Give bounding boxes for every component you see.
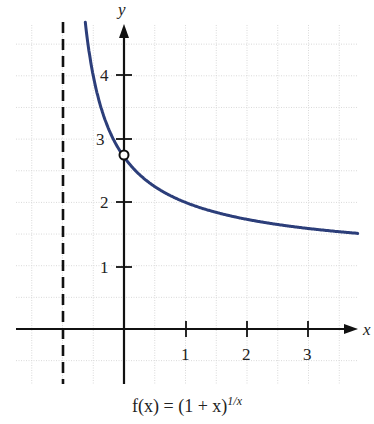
y-axis-label: y — [116, 0, 126, 19]
x-axis-arrow-icon — [344, 324, 358, 334]
y-tick-2: 2 — [100, 193, 109, 212]
grid — [16, 25, 358, 385]
chart: x y 1 2 3 4 3 2 1 — [0, 0, 374, 424]
x-axis-label: x — [362, 320, 371, 339]
x-tick-3: 3 — [303, 345, 312, 364]
y-axis-arrow-icon — [119, 24, 129, 38]
y-tick-1: 1 — [100, 258, 109, 277]
y-tick-4: 4 — [100, 66, 109, 85]
x-tick-1: 1 — [181, 345, 190, 364]
caption-formula: f(x) = (1 + x) — [132, 396, 227, 416]
function-caption: f(x) = (1 + x)1/x — [0, 394, 374, 417]
y-tick-3: 3 — [96, 130, 105, 149]
x-tick-2: 2 — [242, 345, 251, 364]
caption-exponent: 1/x — [227, 394, 242, 408]
open-point-marker — [120, 151, 129, 160]
